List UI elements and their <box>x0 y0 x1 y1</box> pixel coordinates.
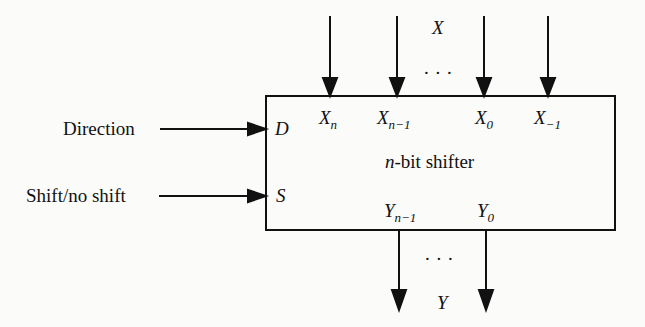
output-yn-1: Yn−1 <box>384 201 416 220</box>
input-xn: Xn <box>319 108 337 127</box>
port-d: D <box>275 119 289 138</box>
input-x-minus-1: X−1 <box>534 108 561 127</box>
input-ellipsis: . . . <box>424 58 453 77</box>
output-y0: Y0 <box>477 201 494 220</box>
shift-no-shift-label: Shift/no shift <box>26 186 126 205</box>
port-s: S <box>276 186 286 205</box>
direction-label: Direction <box>63 119 135 138</box>
input-x0: X0 <box>475 108 493 127</box>
input-xn-1: Xn−1 <box>377 108 410 127</box>
shifter-diagram-graphics <box>0 0 645 327</box>
shifter-title: n-bit shifter <box>385 152 474 171</box>
output-ellipsis: . . . <box>425 244 454 263</box>
input-bus-label: X <box>432 18 444 37</box>
control-arrows <box>159 123 266 202</box>
output-bus-label: Y <box>437 293 448 312</box>
